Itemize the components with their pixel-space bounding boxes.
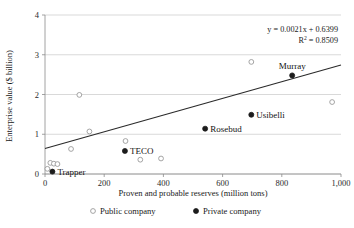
private-company-point [249, 112, 254, 117]
y-tick-label: 1 [35, 129, 39, 139]
legend-marker-public [91, 209, 96, 214]
scatter-chart: 01234 02004006008001,000 Enterprise valu… [0, 0, 354, 228]
r-squared-label: R2 = 0.8509 [299, 35, 339, 45]
legend-label: Public company [100, 206, 156, 216]
legend: Public companyPrivate company [91, 206, 262, 216]
x-tick-label: 1,000 [331, 178, 350, 188]
public-company-point [87, 129, 92, 134]
private-company-point [203, 126, 208, 131]
public-company-point [123, 139, 128, 144]
public-company-point [159, 156, 164, 161]
data-point-label: Rosebud [210, 124, 242, 134]
y-tick-label: 3 [35, 50, 39, 60]
x-tick-label: 400 [157, 178, 170, 188]
public-company-point [69, 147, 74, 152]
y-tick-labels-group: 01234 [35, 10, 40, 179]
data-point-label: Murray [279, 61, 306, 71]
private-company-point [50, 169, 55, 174]
chart-container: 01234 02004006008001,000 Enterprise valu… [0, 0, 354, 228]
public-company-point [77, 92, 82, 97]
gridlines-group [45, 15, 341, 174]
data-point-label: Trapper [57, 167, 85, 177]
y-tick-label: 4 [35, 10, 40, 20]
x-tick-label: 200 [98, 178, 111, 188]
regression-equation-label: y = 0.0021x + 0.6399 [267, 25, 338, 34]
public-company-point [45, 166, 50, 171]
data-point-label: Usibelli [256, 110, 285, 120]
x-tick-labels-group: 02004006008001,000 [43, 178, 351, 188]
y-tick-label: 2 [35, 90, 39, 100]
public-company-point [55, 162, 60, 167]
private-company-point [122, 148, 127, 153]
public-company-point [138, 157, 143, 162]
x-tick-label: 600 [216, 178, 229, 188]
y-axis-title: Enterprise value ($ billion) [4, 50, 14, 142]
axes-group [42, 15, 341, 177]
r-squared-value: = 0.8509 [307, 36, 338, 45]
legend-label: Private company [203, 206, 262, 216]
data-point-labels-group: TrapperTECORosebudUsibelliMurray [57, 61, 306, 176]
data-point-label: TECO [130, 146, 154, 156]
x-tick-label: 800 [275, 178, 288, 188]
legend-marker-private [194, 209, 199, 214]
x-tick-label: 0 [43, 178, 47, 188]
public-company-point [249, 60, 254, 65]
public-company-point [330, 100, 335, 105]
private-company-point [290, 73, 295, 78]
trendline [45, 65, 341, 148]
y-tick-label: 0 [35, 169, 39, 179]
x-axis-title: Proven and probable reserves (million to… [119, 188, 268, 198]
